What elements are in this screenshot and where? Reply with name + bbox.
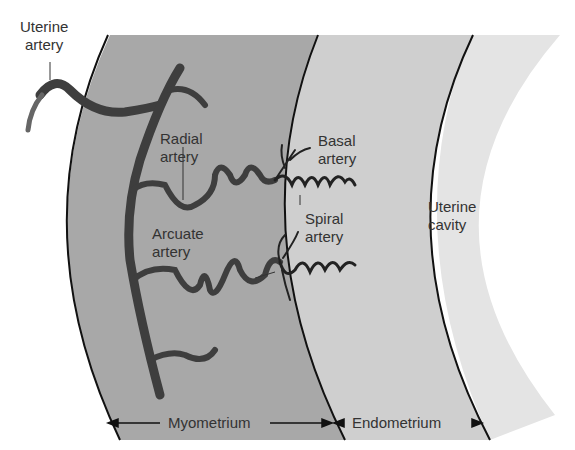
- label-basal-artery: Basal artery: [318, 132, 356, 168]
- label-uterine-cavity: Uterine cavity: [428, 198, 476, 234]
- label-uterine-artery: Uterine artery: [20, 18, 68, 54]
- label-spiral-artery: Spiral artery: [305, 210, 343, 246]
- label-myometrium: Myometrium: [168, 414, 251, 432]
- uterine-wall-diagram: [0, 0, 575, 450]
- label-radial-artery: Radial artery: [160, 130, 203, 166]
- label-endometrium: Endometrium: [352, 414, 441, 432]
- label-arcuate-artery: Arcuate artery: [152, 225, 204, 261]
- uterine-artery-tail: [28, 95, 42, 130]
